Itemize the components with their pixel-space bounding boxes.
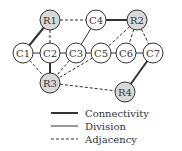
node-c6: C6 — [116, 43, 136, 63]
node-label: C2 — [43, 48, 57, 59]
node-label: R3 — [43, 78, 57, 89]
node-r3: R3 — [40, 73, 60, 93]
node-label: C5 — [94, 48, 108, 59]
edge-adjacency-r3-r4 — [50, 83, 125, 92]
node-c2: C2 — [40, 43, 60, 63]
node-label: C3 — [69, 48, 83, 59]
legend-adjacency-label: Adjacency — [84, 134, 137, 145]
node-c3: C3 — [66, 43, 86, 63]
legend-division-label: Division — [85, 121, 126, 132]
node-label: R4 — [118, 87, 132, 98]
node-c7: C7 — [143, 43, 163, 63]
node-c1: C1 — [13, 43, 33, 63]
graph-diagram: R1C4R2C1C2C3C5C6C7R3R4 Connectivity Divi… — [0, 0, 182, 151]
node-label: R2 — [130, 15, 144, 26]
nodes-layer: R1C4R2C1C2C3C5C6C7R3R4 — [13, 10, 163, 102]
legend: Connectivity Division Adjacency — [51, 108, 149, 145]
legend-connectivity-label: Connectivity — [85, 108, 149, 119]
node-r2: R2 — [127, 10, 147, 30]
node-c5: C5 — [91, 43, 111, 63]
node-r1: R1 — [40, 10, 60, 30]
node-label: C6 — [119, 48, 133, 59]
node-label: C4 — [89, 15, 103, 26]
node-label: C1 — [16, 48, 30, 59]
node-c4: C4 — [86, 10, 106, 30]
node-label: C7 — [146, 48, 160, 59]
node-r4: R4 — [115, 82, 135, 102]
node-label: R1 — [43, 15, 57, 26]
